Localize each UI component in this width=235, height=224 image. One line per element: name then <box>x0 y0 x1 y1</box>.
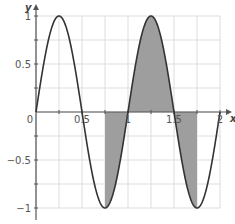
x-tick-label: 1 <box>125 114 131 125</box>
x-tick-label: 2 <box>217 114 223 125</box>
x-tick-label: 0.5 <box>74 114 90 125</box>
y-tick-label: −0.5 <box>7 155 31 166</box>
y-axis-arrow-icon <box>33 4 39 10</box>
x-tick-label: 0 <box>27 114 33 125</box>
y-tick-label: −1 <box>16 203 31 214</box>
x-tick-label: 1.5 <box>166 114 182 125</box>
x-axis-label: x <box>229 113 235 124</box>
y-tick-label: 0.5 <box>15 59 31 70</box>
y-axis-label: y <box>25 2 32 13</box>
sine-chart: 00.511.52−1−0.50.51 x y <box>0 0 235 224</box>
axes <box>33 4 232 220</box>
